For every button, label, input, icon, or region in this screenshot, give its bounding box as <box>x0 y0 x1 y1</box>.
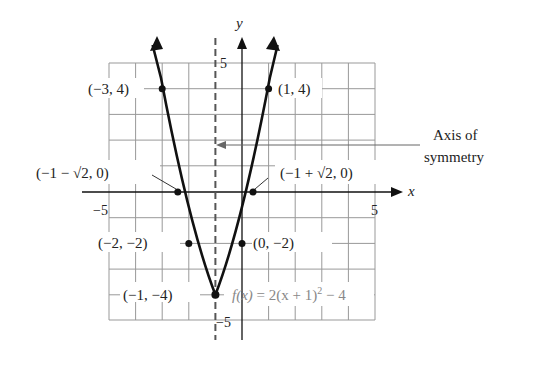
label-root-right: (−1 + √2, 0) <box>280 165 353 182</box>
label-vertex: (−1, −4) <box>123 287 172 304</box>
function-name: f(x) <box>232 287 253 304</box>
x-axis-label: x <box>407 183 415 199</box>
label-point-0-m2: (0, −2) <box>253 235 294 252</box>
tick-y-neg5: −5 <box>216 315 231 330</box>
function-tail: − 4 <box>322 287 346 303</box>
point-root-left <box>174 189 181 196</box>
axis-of-symmetry-label-2: symmetry <box>424 149 484 165</box>
point-vertex <box>211 291 219 299</box>
label-root-left: (−1 − √2, 0) <box>36 165 109 182</box>
y-axis-label: y <box>234 15 243 31</box>
axis-of-symmetry-arrow <box>216 141 420 149</box>
leader-root-right <box>255 178 268 189</box>
tick-x-5: 5 <box>371 203 378 218</box>
parabola-graph: y x 5 −5 −5 5 (−3, 4) (1, 4) (−1 − √2, 0… <box>0 0 537 369</box>
axis-of-symmetry-label-1: Axis of <box>433 127 478 143</box>
function-body: = 2(x + 1) <box>253 287 317 304</box>
point-m2-m2 <box>185 240 192 247</box>
label-point-1-4: (1, 4) <box>278 81 311 98</box>
function-label: f(x) = 2(x + 1)2 − 4 <box>232 285 346 304</box>
point-1-4 <box>265 85 272 92</box>
tick-x-neg5: −5 <box>93 203 108 218</box>
point-root-right <box>250 189 257 196</box>
label-point-m2-m2: (−2, −2) <box>98 235 147 252</box>
tick-y-5: 5 <box>220 56 227 71</box>
point-m3-4 <box>159 85 166 92</box>
curve-arrow-right <box>266 36 280 51</box>
curve-arrow-left <box>150 36 163 51</box>
point-0-m2 <box>239 240 246 247</box>
label-point-m3-4: (−3, 4) <box>88 81 129 98</box>
